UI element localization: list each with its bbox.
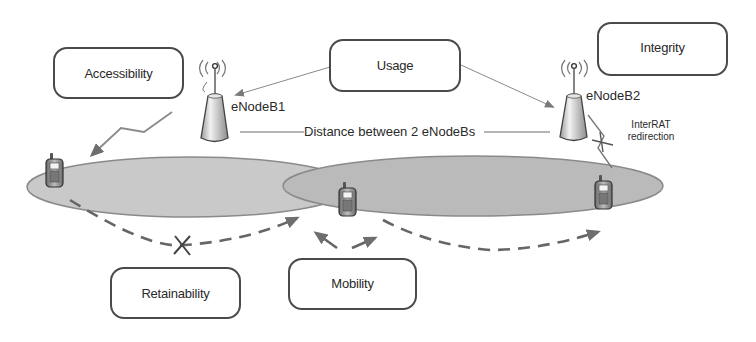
enodeb1-tower-icon <box>200 60 229 142</box>
mobility-handover-arrows <box>316 233 375 248</box>
kpi-box-integrity: Integrity <box>597 22 728 76</box>
enodeb1-label: eNodeB1 <box>231 99 285 114</box>
usage-dashed-path <box>383 220 598 250</box>
enodeb2-tower-icon <box>560 60 588 141</box>
kpi-box-accessibility: Accessibility <box>53 47 184 99</box>
enodeb2-label: eNodeB2 <box>586 88 640 103</box>
interrat-label-line2: redirection <box>618 131 684 143</box>
kpi-label-usage: Usage <box>377 58 414 73</box>
interrat-redirection-link <box>588 115 613 168</box>
kpi-box-retainability: Retainability <box>110 267 241 319</box>
mobile-phone-icon <box>46 153 63 187</box>
accessibility-radio-link <box>92 112 172 155</box>
interrat-label-line1: InterRAT <box>618 119 684 131</box>
interrat-redirection-label: InterRAT redirection <box>618 119 684 143</box>
lte-kpi-diagram: Accessibility Usage Integrity Retainabil… <box>0 0 756 342</box>
kpi-box-usage: Usage <box>329 39 461 92</box>
kpi-label-accessibility: Accessibility <box>84 66 152 81</box>
kpi-box-mobility: Mobility <box>288 258 417 310</box>
kpi-label-mobility: Mobility <box>331 276 373 291</box>
kpi-label-integrity: Integrity <box>640 40 684 55</box>
distance-label: Distance between 2 eNodeBs <box>304 124 475 139</box>
kpi-label-retainability: Retainability <box>141 286 209 301</box>
